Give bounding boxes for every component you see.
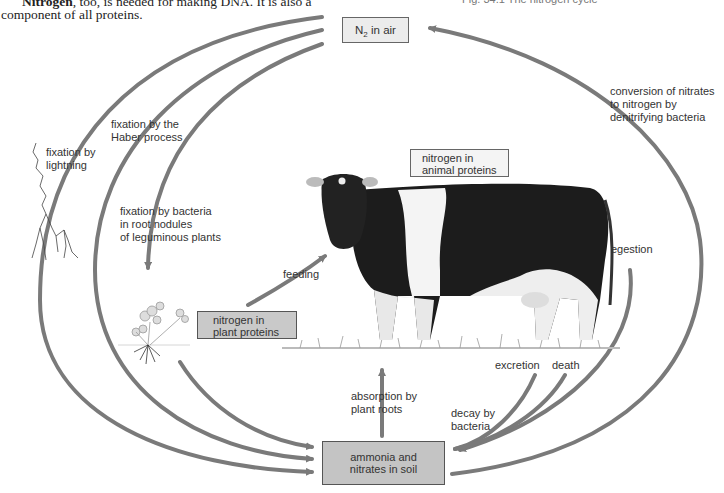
box-soil-nitrates: ammonia andnitrates in soil <box>322 441 445 485</box>
box-plant-proteins: nitrogen inplant proteins <box>197 311 297 339</box>
label-absorption: absorption byplant roots <box>351 390 417 416</box>
box-n2-in-air: N2 in air <box>342 17 409 43</box>
arrow-lightning <box>40 17 322 472</box>
label-death: death <box>552 359 580 372</box>
clover-plant-illustration <box>118 302 190 364</box>
label-denitrification: conversion of nitratesto nitrogen bydeni… <box>610 85 715 124</box>
label-decay: decay bybacteria <box>451 407 495 433</box>
cow-illustration <box>306 174 612 340</box>
label-excretion: excretion <box>495 359 540 372</box>
grass-illustration <box>282 334 620 348</box>
nitrogen-cycle-figure: Nitrogen, too, is needed for making DNA.… <box>0 0 724 493</box>
box-animal-proteins: nitrogen inanimal proteins <box>410 149 509 177</box>
label-feeding: feeding <box>283 268 319 281</box>
arrow-plant-decay <box>180 362 312 447</box>
label-fixation-lightning: fixation bylightning <box>46 146 96 172</box>
label-egestion: egestion <box>611 243 653 256</box>
label-fixation-bacteria: fixation by bacteriain root nodulesof le… <box>120 205 221 244</box>
label-fixation-haber: fixation by theHaber process <box>111 118 183 144</box>
